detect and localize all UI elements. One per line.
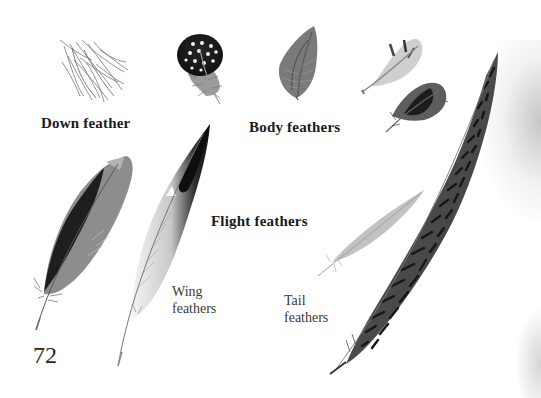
spotted-body-feather-illustration xyxy=(177,34,223,104)
dark-body-feather-illustration xyxy=(386,83,448,132)
label-tail-line1: Tail xyxy=(284,292,328,309)
book-page: Down feather Body feathers Flight feathe… xyxy=(0,0,541,398)
feather-illustrations xyxy=(0,0,541,398)
heading-flight-feathers: Flight feathers xyxy=(211,213,308,230)
heading-down-feather: Down feather xyxy=(41,115,130,132)
pale-body-feather-illustration xyxy=(362,39,422,94)
gray-body-feather-illustration xyxy=(279,26,317,100)
label-wing-feathers: Wing feathers xyxy=(172,283,216,317)
page-number: 72 xyxy=(33,342,57,369)
label-wing-line2: feathers xyxy=(172,300,216,317)
down-feather-illustration xyxy=(60,40,128,102)
label-wing-line1: Wing xyxy=(172,283,216,300)
label-tail-feathers: Tail feathers xyxy=(284,292,328,326)
gray-wing-feather-illustration xyxy=(34,156,133,330)
label-tail-line2: feathers xyxy=(284,309,328,326)
black-white-wing-feather-illustration xyxy=(118,124,210,366)
heading-body-feathers: Body feathers xyxy=(249,119,340,136)
